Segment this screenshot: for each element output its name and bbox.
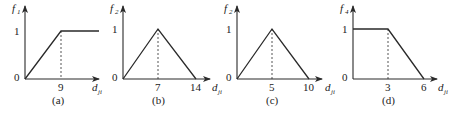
xtick-9: 9 (58, 81, 64, 93)
xtick-5: 5 (269, 81, 275, 93)
xtick-3: 3 (385, 81, 391, 93)
y-label-sub: 4 (345, 8, 349, 16)
y-label-sub: 2 (229, 8, 233, 16)
xtick-10: 10 (303, 81, 315, 93)
ytick-1: 1 (226, 23, 232, 35)
caption-d: (d) (382, 94, 395, 107)
x-label-sub: ji (443, 88, 448, 96)
membership-curve (237, 29, 309, 79)
xtick-7: 7 (155, 81, 161, 93)
membership-curve (25, 31, 99, 79)
caption-a: (a) (52, 94, 65, 107)
caption-c: (c) (266, 94, 279, 107)
membership-curve (353, 29, 424, 79)
panel-a: f 1 1 0 9 d ji (a) (12, 2, 102, 107)
panel-b: f 2 1 0 7 14 d ji (b) (110, 2, 222, 107)
ytick-0: 0 (112, 71, 118, 83)
ytick-0: 0 (342, 71, 348, 83)
xtick-14: 14 (190, 81, 202, 93)
ytick-1: 1 (342, 23, 348, 35)
x-label-sub: ji (97, 88, 102, 96)
y-label-sub: 2 (115, 8, 119, 16)
x-label-sub: ji (330, 88, 335, 96)
panel-c: f 2 1 0 5 10 d ji (c) (224, 2, 335, 107)
x-label-sub: ji (217, 88, 222, 96)
ytick-1: 1 (112, 23, 118, 35)
ytick-1: 1 (14, 25, 20, 37)
membership-curve (123, 29, 196, 79)
ytick-0: 0 (226, 71, 232, 83)
figure: f 1 1 0 9 d ji (a) f 2 1 0 7 14 d ji (b)… (0, 0, 463, 114)
xtick-6: 6 (421, 81, 427, 93)
caption-b: (b) (152, 94, 165, 107)
ytick-0: 0 (14, 71, 20, 83)
y-label-sub: 1 (17, 8, 21, 16)
panel-d: f 4 1 0 3 6 d ji (d) (340, 2, 448, 107)
